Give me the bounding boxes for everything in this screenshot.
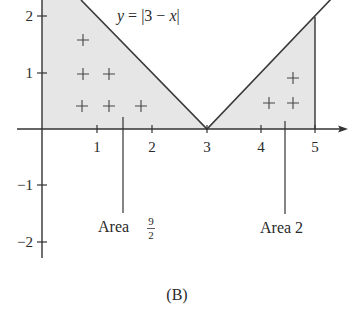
- area-label-right: Area 2: [260, 219, 303, 236]
- equation-label: y = |3 − x|: [115, 7, 180, 25]
- y-tick-label: −1: [17, 177, 33, 193]
- x-tick-label: 2: [148, 139, 156, 155]
- x-tick-label: 4: [257, 139, 265, 155]
- area-under-abs-value-chart: 1 2 3 4 5 2 1 −1 −2 y = |3 − x| A: [0, 0, 354, 309]
- x-tick-label: 5: [311, 139, 319, 155]
- area-left-denominator: 2: [148, 229, 154, 241]
- y-tick-label: 1: [26, 65, 34, 81]
- area-label-left: Area: [98, 218, 129, 235]
- figure-caption: (B): [166, 286, 187, 304]
- area-left-numerator: 9: [148, 215, 154, 227]
- x-tick-label: 3: [203, 139, 211, 155]
- x-tick-label: 1: [93, 139, 101, 155]
- y-tick-label: 2: [26, 8, 34, 24]
- y-tick-label: −2: [17, 234, 33, 250]
